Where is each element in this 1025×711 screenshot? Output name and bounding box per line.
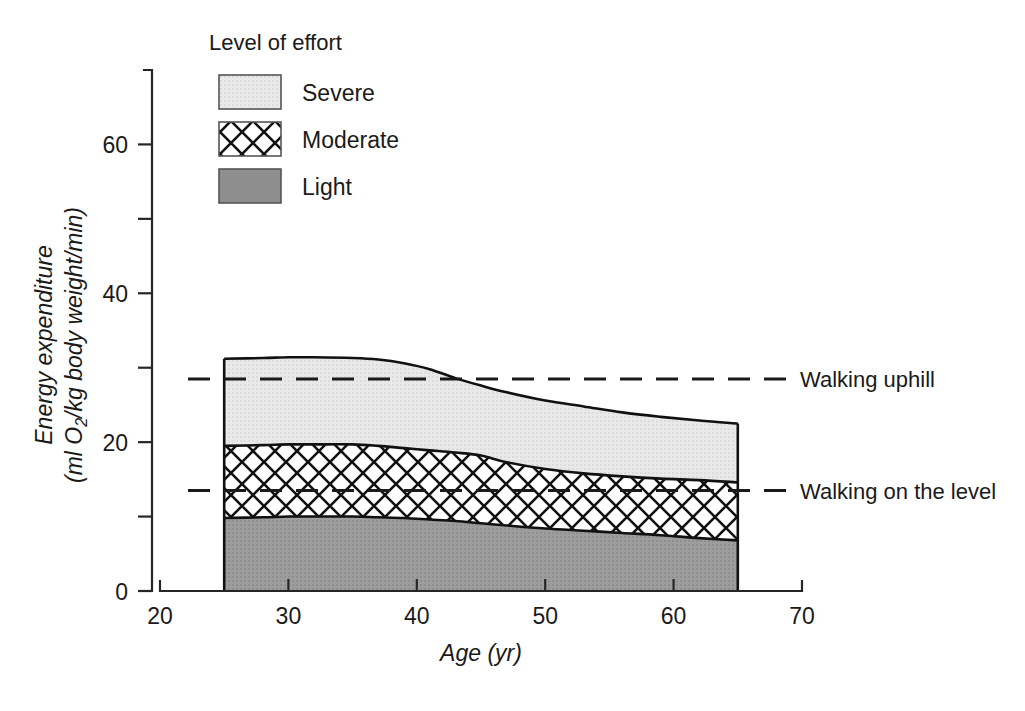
- x-tick-label-60: 60: [661, 603, 687, 629]
- x-tick-label-40: 40: [404, 603, 430, 629]
- y-axis-title-line2: (ml O2/kg body weight/min): [61, 207, 90, 483]
- y-axis-ticks: [138, 144, 152, 591]
- x-tick-label-20: 20: [147, 603, 173, 629]
- plot-areas: [224, 357, 738, 591]
- y-tick-label-60: 60: [102, 132, 128, 158]
- x-axis-tick-labels: 203040506070: [147, 603, 815, 629]
- y-axis-tick-labels: 0204060: [102, 132, 128, 605]
- energy-expenditure-area-chart: Walking uphill Walking on the level 0204…: [0, 0, 1025, 711]
- y-axis-line: [144, 70, 152, 591]
- x-tick-label-30: 30: [276, 603, 302, 629]
- legend-label-moderate: Moderate: [302, 127, 399, 153]
- y-axis: 0204060: [102, 70, 152, 605]
- chart-container: Walking uphill Walking on the level 0204…: [0, 0, 1025, 711]
- x-tick-label-50: 50: [532, 603, 558, 629]
- legend-swatch-moderate: [219, 122, 281, 156]
- y-axis-title-line2-post: /kg body weight/min): [61, 207, 87, 420]
- y-tick-label-40: 40: [102, 281, 128, 307]
- y-axis-title-line2-pre: (ml O: [61, 427, 87, 483]
- legend-label-severe: Severe: [302, 80, 375, 106]
- legend: Level of effort Severe Moderate Light: [209, 30, 399, 203]
- y-tick-label-20: 20: [102, 430, 128, 456]
- y-axis-title-line2-sub: 2: [73, 418, 90, 428]
- reference-label-walking-uphill: Walking uphill: [800, 367, 935, 392]
- x-tick-label-70: 70: [789, 603, 815, 629]
- reference-label-walking-level: Walking on the level: [800, 479, 996, 504]
- x-axis-title: Age (yr): [438, 640, 522, 666]
- legend-label-light: Light: [302, 174, 352, 200]
- legend-title: Level of effort: [209, 30, 342, 55]
- legend-swatch-severe: [219, 75, 281, 109]
- y-axis-title-line1: Energy expenditure: [31, 245, 57, 444]
- y-axis-title: Energy expenditure (ml O2/kg body weight…: [31, 207, 90, 483]
- reference-labels: Walking uphill Walking on the level: [800, 367, 996, 504]
- legend-swatch-light: [219, 169, 281, 203]
- y-tick-label-0: 0: [115, 579, 128, 605]
